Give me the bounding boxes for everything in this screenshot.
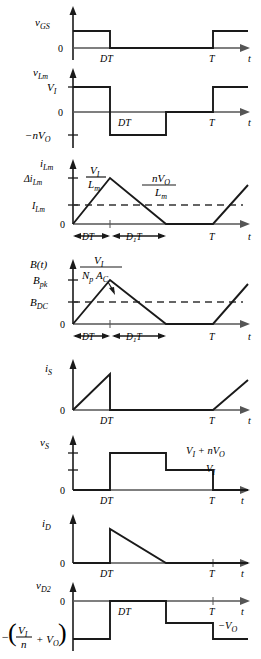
mark-t-is: T — [209, 415, 216, 426]
zero-label-ilm: 0 — [60, 219, 65, 230]
waveform-vgs — [73, 31, 248, 48]
axis-label-id: iD — [42, 517, 51, 532]
axis-label-ilm: iLm — [40, 157, 54, 172]
value-label-ilm-dc: ILm — [31, 200, 46, 214]
zero-label-id: 0 — [60, 558, 65, 569]
waveform-id — [73, 529, 248, 563]
time-label-is: t — [248, 415, 251, 426]
zero-label-vs: 0 — [60, 485, 65, 496]
svg-text:+ VO: + VO — [36, 633, 59, 648]
interval-dt-label: DT — [81, 232, 95, 242]
value-label-bdc: BDC — [30, 296, 49, 311]
interval-dt-label-bt: DT — [81, 332, 95, 342]
value-label-vi-vlm: VI — [47, 81, 57, 96]
mark-t-bt: T — [209, 331, 216, 342]
value-label-minus-vo: −VO — [218, 620, 238, 634]
slope-label-rise-ilm: VI Lm — [86, 164, 106, 193]
interval-d1t-ilm: D1T — [112, 232, 166, 244]
axis-group-vs — [68, 435, 250, 494]
value-label-vi-plus-nvo: VI + nVO — [186, 445, 225, 459]
plot-vgs: vGS 0 DT T t — [0, 0, 261, 70]
axis-group-vgs — [70, 6, 251, 60]
time-label-ilm: t — [248, 231, 251, 242]
axis-group-vd2 — [70, 582, 251, 651]
mark-dt-vd2: DT — [117, 606, 132, 617]
interval-d1t-label-bt: D1T — [125, 332, 142, 344]
plot-vlm: vLm VI 0 −nVO DT T t — [0, 62, 261, 154]
waveform-is — [73, 374, 248, 410]
waveform-vs — [73, 453, 248, 490]
axis-label-bt: B(t) — [30, 258, 47, 271]
time-label-bt: t — [248, 331, 251, 342]
slope-label-bt: VI Np AC — [80, 254, 122, 295]
plot-vs: vS 0 VI + nVO VI DT T t — [0, 428, 261, 510]
mark-dt-vlm: DT — [117, 117, 132, 128]
svg-text:nVO: nVO — [152, 172, 170, 187]
plot-id: iD 0 DT T t — [0, 505, 261, 583]
svg-text:n: n — [21, 638, 27, 650]
slope-label-fall-ilm: nVO Lm — [142, 172, 176, 201]
value-label-bpk: Bpk — [33, 274, 48, 289]
svg-text:(: ( — [8, 618, 17, 647]
mark-dt-is: DT — [99, 415, 114, 426]
plot-is: iS 0 DT T t — [0, 352, 261, 430]
axis-label-vd2: vD2 — [36, 579, 51, 594]
value-label-delta-ilm: ΔiLm — [23, 173, 43, 187]
svg-text:Lm: Lm — [87, 178, 100, 193]
svg-text:VI: VI — [90, 164, 100, 179]
time-label-vlm: t — [248, 117, 251, 128]
interval-dt-ilm: DT — [73, 232, 110, 242]
zero-label-vd2: 0 — [60, 596, 65, 607]
interval-dt-bt: DT — [73, 332, 110, 342]
svg-text:Np AC: Np AC — [81, 269, 109, 284]
zero-label-is: 0 — [60, 405, 65, 416]
svg-text:VI: VI — [18, 624, 28, 639]
zero-label-vgs: 0 — [58, 43, 63, 54]
zero-label-vlm: 0 — [58, 107, 63, 118]
time-label-vd2: t — [241, 606, 244, 617]
mark-t-vd2: T — [209, 606, 216, 617]
plot-bt: B(t) Bpk BDC 0 VI Np AC DT D1T T t — [0, 252, 261, 350]
axis-label-vs: vS — [40, 436, 49, 451]
interval-d1t-label: D1T — [125, 232, 142, 244]
axis-label-vgs: vGS — [35, 16, 50, 31]
plot-vd2: vD2 0 DT T t −VO − ( VI n + VO ) — [0, 577, 261, 659]
mark-t-vlm: T — [209, 117, 216, 128]
interval-d1t-bt: D1T — [112, 332, 166, 344]
value-label-nvo-vlm: −nVO — [25, 129, 51, 144]
axis-group-vlm — [68, 68, 250, 148]
mark-t-ilm: T — [209, 231, 216, 242]
value-label-neg-peak-vd2: − ( VI n + VO ) — [1, 618, 67, 650]
zero-label-bt: 0 — [60, 319, 65, 330]
plot-ilm: iLm ΔiLm ILm 0 VI Lm nVO Lm DT D1T T t — [0, 152, 261, 250]
axis-label-is: iS — [45, 362, 52, 377]
svg-text:Lm: Lm — [154, 186, 167, 201]
axis-label-vlm: vLm — [33, 66, 48, 81]
svg-text:): ) — [58, 618, 67, 647]
waveform-vlm — [73, 87, 248, 135]
svg-text:VI: VI — [94, 254, 104, 269]
value-label-vi-vs: VI — [206, 463, 215, 477]
